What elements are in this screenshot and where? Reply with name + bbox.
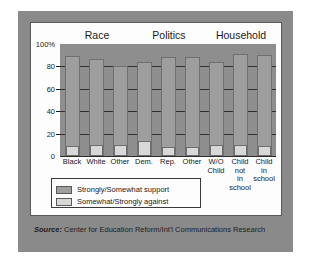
bar-against <box>138 141 151 156</box>
legend-label-support: Strongly/Somewhat support <box>77 185 169 194</box>
bar-support <box>161 57 176 156</box>
y-tick-label: 0 <box>51 152 55 161</box>
x-axis-label: Black <box>60 158 84 167</box>
bar-support <box>89 59 104 156</box>
bar-support <box>113 66 128 156</box>
bar-support <box>257 55 272 156</box>
bar-against <box>258 146 271 156</box>
x-axis-label: W/O Child <box>204 158 228 175</box>
x-axis-label: Other <box>180 158 204 167</box>
y-tick-label: 100% <box>36 40 55 49</box>
legend-item-against: Somewhat/Strongly against <box>56 196 168 207</box>
bar-support <box>209 62 224 156</box>
bar-against <box>186 147 199 156</box>
legend-item-support: Strongly/Somewhat support <box>56 184 169 195</box>
y-tick-label: 60 <box>47 84 55 93</box>
source-note: Source: Center for Education Reform/Int'… <box>34 225 284 234</box>
y-tick-label: 80 <box>47 62 55 71</box>
x-axis-label: Rep. <box>156 158 180 167</box>
bar-support <box>233 54 248 156</box>
chart-card: Race Politics Household 100% 80 60 40 20… <box>30 22 282 216</box>
x-axis-label: Other <box>108 158 132 167</box>
bar-support <box>185 57 200 156</box>
x-axis-label: White <box>84 158 108 167</box>
legend-label-against: Somewhat/Strongly against <box>77 197 168 206</box>
source-lead: Source: <box>34 225 62 234</box>
group-header-row: Race Politics Household <box>61 29 277 45</box>
bar-support <box>65 56 80 156</box>
y-tick-label: 40 <box>47 107 55 116</box>
bar-against <box>234 145 247 156</box>
chart-legend: Strongly/Somewhat support Somewhat/Stron… <box>51 178 201 208</box>
chart-frame: Race Politics Household 100% 80 60 40 20… <box>18 11 293 252</box>
group-header-politics: Politics <box>133 29 205 41</box>
plot-wrapper: 100% 80 60 40 20 0 BlackWhiteOtherDem.Re… <box>31 44 283 175</box>
source-text: Center for Education Reform/Int'l Commun… <box>62 225 265 234</box>
x-axis-label: Child in school <box>252 158 276 184</box>
group-header-household: Household <box>205 29 277 41</box>
plot-area <box>60 44 276 157</box>
x-axis-label: Child not in school <box>228 158 252 192</box>
bar-against <box>210 145 223 156</box>
bar-against <box>90 145 103 156</box>
y-tick-label: 20 <box>47 129 55 138</box>
group-header-race: Race <box>61 29 133 41</box>
bar-against <box>66 146 79 156</box>
y-axis: 100% 80 60 40 20 0 <box>31 44 60 156</box>
bar-against <box>162 147 175 156</box>
legend-swatch-support <box>56 186 72 194</box>
legend-swatch-against <box>56 198 72 206</box>
bar-against <box>114 145 127 156</box>
x-axis-label: Dem. <box>132 158 156 167</box>
